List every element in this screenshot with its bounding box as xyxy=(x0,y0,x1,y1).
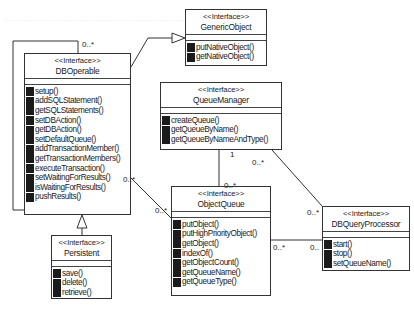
public-method-icon xyxy=(26,106,34,115)
class-name: QueueManager xyxy=(163,95,279,105)
class-header: <<Interface>> QueueManager xyxy=(161,83,281,108)
operation-item: getQueueByName() xyxy=(162,126,279,136)
class-queuemanager[interactable]: <<Interface>> QueueManager createQueue()… xyxy=(160,82,282,150)
public-method-icon xyxy=(26,135,34,144)
operation-item: addSQLStatement() xyxy=(26,97,128,107)
multiplicity-label: 0..* xyxy=(252,158,264,167)
operation-item: putNativeObject() xyxy=(187,43,264,53)
stereotype-label: <<Interface>> xyxy=(27,56,128,66)
multiplicity-label: 0..* xyxy=(82,40,94,49)
operation-item: setDBAction() xyxy=(26,116,128,126)
public-method-icon xyxy=(162,116,170,125)
operation-item: save() xyxy=(53,269,109,279)
multiplicity-label: 0..* xyxy=(155,206,167,215)
public-method-icon xyxy=(187,43,195,52)
public-method-icon xyxy=(26,97,34,106)
class-objectqueue[interactable]: <<Interface>> ObjectQueue putObject() pu… xyxy=(171,186,271,296)
operation-item: getQueueName() xyxy=(173,268,268,278)
public-method-icon xyxy=(26,164,34,173)
stereotype-label: <<Interface>> xyxy=(174,189,268,199)
public-method-icon xyxy=(162,135,170,144)
multiplicity-label: 1 xyxy=(230,150,234,159)
public-method-icon xyxy=(173,268,181,277)
public-method-icon xyxy=(162,126,170,135)
multiplicity-label: 0..* xyxy=(224,181,236,190)
class-header: <<Interface>> ObjectQueue xyxy=(172,187,270,212)
operation-item: indexOf() xyxy=(173,249,268,259)
operation-item: putObject() xyxy=(173,220,268,230)
operations-compartment: putObject() putHighPriorityObject() getO… xyxy=(172,218,270,290)
operation-item: setup() xyxy=(26,87,128,97)
operation-item: createQueue() xyxy=(162,116,279,126)
association-qm-dbqp xyxy=(272,150,322,206)
operation-item: start() xyxy=(324,240,407,250)
public-method-icon xyxy=(53,288,61,297)
public-method-icon xyxy=(324,240,332,249)
class-genericobject[interactable]: <<Interface>> GenericObject putNativeObj… xyxy=(185,9,267,66)
class-dboperable[interactable]: <<Interface>> DBOperable setup() addSQLS… xyxy=(24,53,131,215)
operation-item: getNativeObject() xyxy=(187,53,264,63)
public-method-icon xyxy=(26,116,34,125)
public-method-icon xyxy=(173,278,181,287)
operation-item: setQueueName() xyxy=(324,259,407,269)
public-method-icon xyxy=(26,87,34,96)
operation-item: getObject() xyxy=(173,239,268,249)
operations-compartment: createQueue() getQueueByName() getQueueB… xyxy=(161,114,281,148)
public-method-icon xyxy=(324,250,332,259)
operations-compartment: setup() addSQLStatement() getSQLStatemen… xyxy=(25,85,130,205)
public-method-icon xyxy=(187,53,195,62)
stereotype-label: <<Interface>> xyxy=(163,85,279,95)
class-header: <<Interface>> DBQueryProcessor xyxy=(323,207,409,232)
multiplicity-label: 0..* xyxy=(123,175,135,184)
class-name: DBOperable xyxy=(27,66,128,76)
generalization-arrowhead-icon xyxy=(77,215,87,228)
public-method-icon xyxy=(173,220,181,229)
operation-item: stop() xyxy=(324,250,407,260)
operation-item: setDefaultQueue() xyxy=(26,135,128,145)
stereotype-label: <<Interface>> xyxy=(325,209,407,219)
public-method-icon xyxy=(53,269,61,278)
public-method-icon xyxy=(26,126,34,135)
public-method-icon xyxy=(173,230,181,239)
stereotype-label: <<Interface>> xyxy=(54,238,109,248)
public-method-icon xyxy=(26,183,34,192)
class-persistent[interactable]: <<Interface>> Persistent save() delete()… xyxy=(51,235,112,299)
operation-item: getDBAction() xyxy=(26,125,128,135)
operation-item: delete() xyxy=(53,279,109,289)
operation-item: getQueueType() xyxy=(173,278,268,288)
operations-compartment: start() stop() setQueueName() xyxy=(323,238,409,272)
stereotype-label: <<Interface>> xyxy=(188,12,264,22)
public-method-icon xyxy=(324,259,332,268)
operations-compartment: putNativeObject() getNativeObject() xyxy=(186,41,266,65)
operation-item: getTransactionMembers() xyxy=(26,154,128,164)
multiplicity-label: 0..* xyxy=(273,243,285,252)
class-name: Persistent xyxy=(54,248,109,258)
class-dbqueryprocessor[interactable]: <<Interface>> DBQueryProcessor start() s… xyxy=(322,206,410,271)
class-header: <<Interface>> GenericObject xyxy=(186,10,266,35)
class-header: <<Interface>> Persistent xyxy=(52,236,111,261)
public-method-icon xyxy=(53,279,61,288)
multiplicity-label: 0.. xyxy=(310,243,319,252)
class-header: <<Interface>> DBOperable xyxy=(25,54,130,79)
operation-item: isWaitingForResults() xyxy=(26,183,128,193)
operation-item: putHighPriorityObject() xyxy=(173,230,268,240)
public-method-icon xyxy=(26,154,34,163)
class-name: DBQueryProcessor xyxy=(325,219,407,229)
public-method-icon xyxy=(173,249,181,258)
operation-item: getSQLStatements() xyxy=(26,106,128,116)
operation-item: retrieve() xyxy=(53,288,109,298)
generalization-line-genericobject xyxy=(131,38,172,67)
operation-item: setWaitingForResults() xyxy=(26,173,128,183)
operation-item: getObjectCount() xyxy=(173,258,268,268)
operation-item: pushResults() xyxy=(26,193,128,203)
operation-item: getQueueByNameAndType() xyxy=(162,135,279,145)
public-method-icon xyxy=(26,145,34,154)
operation-item: addTransactionMember() xyxy=(26,145,128,155)
public-method-icon xyxy=(173,239,181,248)
public-method-icon xyxy=(26,174,34,183)
operations-compartment: save() delete() retrieve() xyxy=(52,267,111,301)
public-method-icon xyxy=(26,193,34,202)
class-name: GenericObject xyxy=(188,22,264,32)
class-name: ObjectQueue xyxy=(174,199,268,209)
generalization-arrowhead-icon xyxy=(172,33,185,43)
